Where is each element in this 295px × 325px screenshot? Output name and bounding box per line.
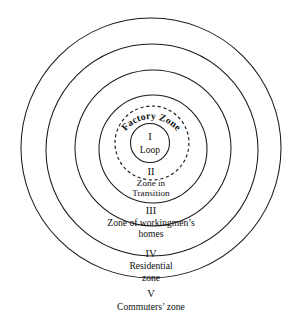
zone-4-name-line2: zone [142, 272, 160, 283]
zone-3-name-line2: homes [138, 228, 163, 239]
zone-diagram-svg: Factory Zone I Loop II Zone in Transitio… [0, 0, 295, 325]
zone-4-name-line1: Residential [129, 260, 172, 271]
zone-1-name: Loop [140, 144, 160, 155]
zone-2-numeral: II [148, 166, 155, 177]
zone-1-numeral: I [148, 131, 152, 142]
zone-circle-1-loop [131, 124, 170, 163]
zone-3-numeral: III [146, 205, 157, 216]
zone-5-numeral: V [147, 288, 155, 299]
zone-2-name-line1: Zone in [137, 178, 166, 188]
zone-5-name-line1: Commuters’ zone [117, 301, 185, 312]
zone-3-name-line1: Zone of workingmen’s [107, 217, 195, 228]
concentric-zone-diagram: Factory Zone I Loop II Zone in Transitio… [0, 0, 295, 325]
zone-2-name-line2: Transition [132, 188, 170, 198]
zone-4-numeral: IV [145, 248, 156, 259]
